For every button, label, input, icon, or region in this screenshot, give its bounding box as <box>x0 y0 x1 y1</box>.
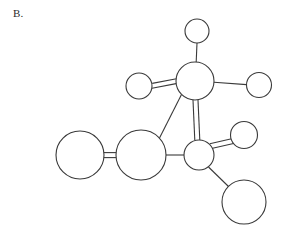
bond-n2-n4 <box>214 82 247 84</box>
figure-panel: B. <box>0 0 285 233</box>
bond-n2-n3-b <box>152 79 176 84</box>
atom-node-n5 <box>116 130 166 180</box>
bond-n2-n7-a <box>193 100 195 140</box>
atom-node-n4 <box>247 73 272 98</box>
atom-node-n8 <box>231 122 258 149</box>
atom-node-n6 <box>56 131 104 179</box>
atom-node-n2 <box>176 62 214 100</box>
bond-n7-n8-b <box>210 139 232 144</box>
atom-node-n7 <box>184 140 214 170</box>
bond-n7-n9 <box>209 167 229 187</box>
atom-node-n9 <box>222 180 266 224</box>
atom-node-n1 <box>185 19 209 43</box>
bond-n7-n8-a <box>212 144 234 149</box>
bond-n2-n5 <box>159 95 182 140</box>
bond-n2-n3-a <box>152 84 176 89</box>
bond-n2-n7-b <box>198 100 200 140</box>
atom-layer <box>56 19 272 224</box>
molecular-structure-diagram <box>0 0 285 233</box>
bond-n2-n1 <box>196 43 197 62</box>
atom-node-n3 <box>126 73 152 99</box>
